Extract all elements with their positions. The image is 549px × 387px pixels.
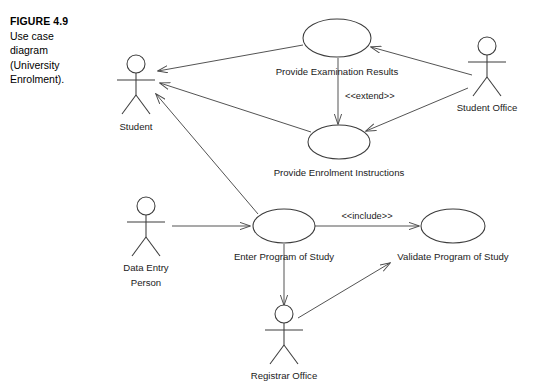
actor-label: Student [119, 121, 152, 132]
actor-head-icon [275, 305, 293, 323]
use-case-label: Provide Examination Results [276, 66, 399, 77]
actor-data-entry-person[interactable]: Data Entry Person [123, 197, 169, 288]
actor-leg-right-line [487, 77, 501, 96]
actor-label: Student Office [457, 102, 518, 113]
actor-leg-left-line [270, 345, 284, 364]
use-case-ellipse [303, 19, 371, 57]
use-case-provide-enrolment-instructions[interactable]: Provide Enrolment Instructions [274, 125, 405, 178]
actor-leg-right-line [136, 95, 150, 114]
figure-page: FIGURE 4.9 Use case diagram (University … [0, 0, 549, 387]
use-case-ellipse [308, 125, 370, 159]
actor-registrar-office[interactable]: Registrar Office [251, 305, 317, 381]
stereotype-include-label: <<include>> [341, 211, 392, 221]
actor-label-line-2: Person [131, 277, 161, 288]
use-case-ellipse [253, 209, 315, 243]
actor-head-icon [137, 197, 155, 215]
actor-student[interactable]: Student [117, 55, 155, 132]
actor-leg-right-line [146, 237, 160, 256]
actor-leg-left-line [473, 77, 487, 96]
use-case-label: Validate Program of Study [397, 251, 508, 262]
actor-label: Registrar Office [251, 370, 317, 381]
use-case-validate-program-of-study[interactable]: Validate Program of Study [397, 209, 508, 262]
use-case-enter-program-of-study[interactable]: Enter Program of Study [234, 209, 334, 262]
relation-registrar-office-to-validate-program [298, 263, 390, 318]
actor-label-line-1: Data Entry [123, 262, 169, 273]
use-case-diagram: Provide Examination Results Provide Enro… [0, 0, 549, 387]
actor-leg-left-line [132, 237, 146, 256]
use-case-ellipse [421, 209, 485, 243]
use-case-label: Enter Program of Study [234, 251, 334, 262]
actor-leg-left-line [122, 95, 136, 114]
actor-head-icon [478, 37, 496, 55]
use-case-provide-examination-results[interactable]: Provide Examination Results [276, 19, 399, 77]
actor-head-icon [127, 55, 145, 73]
actor-leg-right-line [284, 345, 298, 364]
stereotype-extend-label: <<extend>> [345, 91, 395, 101]
actor-student-office[interactable]: Student Office [457, 37, 518, 113]
relation-enter-program-to-student [156, 94, 258, 214]
use-case-label: Provide Enrolment Instructions [274, 167, 405, 178]
